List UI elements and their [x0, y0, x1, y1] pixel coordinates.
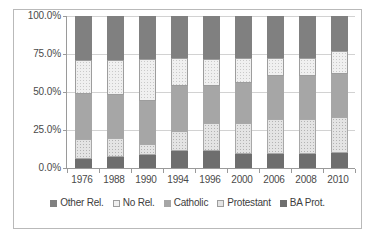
x-tick-label: 2010	[322, 172, 354, 188]
legend-label: BA Prot.	[290, 198, 325, 208]
legend-item-protestant[interactable]: Protestant	[217, 198, 271, 208]
x-tick-label: 2008	[290, 172, 322, 188]
bar-segment	[75, 139, 92, 159]
bar-segment	[139, 59, 156, 102]
bar-segment	[139, 16, 156, 59]
bar-column-1996[interactable]	[195, 16, 227, 168]
bar-segment	[107, 138, 124, 157]
bar-segment	[203, 123, 220, 151]
bar-segment	[267, 119, 284, 153]
bar-segment	[299, 58, 316, 76]
legend-item-catholic[interactable]: Catholic	[164, 198, 209, 208]
y-tickmark	[63, 54, 67, 55]
bar-segment	[171, 131, 188, 151]
x-tickmark	[355, 169, 356, 173]
bar-column-1976[interactable]	[67, 16, 99, 168]
bar-segment	[299, 154, 316, 168]
bar-column-2010[interactable]	[323, 16, 355, 168]
x-tick-label: 1976	[66, 172, 98, 188]
bar-segment	[203, 86, 220, 123]
bar-segment	[171, 16, 188, 58]
bar-segment	[331, 51, 348, 74]
bar-stack	[171, 16, 188, 168]
bar-segment	[267, 76, 284, 119]
y-tick-label: 75.0%	[33, 49, 61, 59]
y-tickmark	[63, 130, 67, 131]
bar-segment	[235, 154, 252, 168]
bar-column-1994[interactable]	[163, 16, 195, 168]
bar-stack	[235, 16, 252, 168]
bar-segment	[139, 155, 156, 168]
x-axis: 197619881990199419962000200620082010	[66, 172, 354, 188]
chart-legend: Other Rel.No Rel.CatholicProtestantBA Pr…	[14, 194, 361, 212]
bar-segment	[171, 58, 188, 86]
bar-segment	[331, 117, 348, 153]
bar-segment	[235, 123, 252, 153]
bar-segment	[171, 86, 188, 131]
bar-segment	[299, 76, 316, 119]
legend-item-other-rel[interactable]: Other Rel.	[50, 198, 104, 208]
legend-swatch-icon	[164, 200, 171, 207]
bar-stack	[139, 16, 156, 168]
legend-item-ba-prot[interactable]: BA Prot.	[280, 198, 325, 208]
bar-segment	[267, 58, 284, 76]
y-tick-label: 0.0%	[39, 163, 61, 173]
bar-segment	[171, 151, 188, 168]
bar-stack	[267, 16, 284, 168]
bar-column-1990[interactable]	[131, 16, 163, 168]
legend-item-no-rel[interactable]: No Rel.	[113, 198, 155, 208]
bar-column-1988[interactable]	[99, 16, 131, 168]
bar-segment	[107, 16, 124, 60]
bar-stack	[299, 16, 316, 168]
bar-segment	[203, 16, 220, 59]
bar-segment	[235, 58, 252, 83]
x-tick-label: 2006	[258, 172, 290, 188]
legend-swatch-icon	[280, 200, 287, 207]
bar-series-group	[67, 16, 355, 168]
bar-segment	[267, 154, 284, 168]
bar-segment	[75, 94, 92, 140]
legend-label: No Rel.	[123, 198, 155, 208]
legend-swatch-icon	[113, 200, 120, 207]
bar-segment	[75, 159, 92, 168]
bar-column-2008[interactable]	[291, 16, 323, 168]
legend-swatch-icon	[50, 200, 57, 207]
plot-wrapper: 0.0%25.0%50.0%75.0%100.0% 19761988199019…	[14, 10, 361, 228]
bar-stack	[203, 16, 220, 168]
bar-segment	[331, 16, 348, 51]
legend-label: Protestant	[227, 198, 271, 208]
legend-label: Catholic	[174, 198, 209, 208]
bar-segment	[75, 60, 92, 93]
bar-segment	[75, 16, 92, 60]
bar-column-2000[interactable]	[227, 16, 259, 168]
y-tickmark	[63, 92, 67, 93]
x-tick-label: 1990	[130, 172, 162, 188]
y-tick-label: 50.0%	[33, 87, 61, 97]
x-tick-label: 1996	[194, 172, 226, 188]
bar-segment	[139, 144, 156, 155]
y-axis: 0.0%25.0%50.0%75.0%100.0%	[14, 16, 64, 168]
bar-segment	[107, 95, 124, 138]
chart-frame: 0.0%25.0%50.0%75.0%100.0% 19761988199019…	[13, 9, 362, 229]
x-tick-label: 2000	[226, 172, 258, 188]
x-tick-label: 1994	[162, 172, 194, 188]
bar-segment	[299, 119, 316, 155]
bar-segment	[331, 153, 348, 168]
bar-segment	[139, 101, 156, 144]
bar-segment	[235, 16, 252, 58]
bar-stack	[107, 16, 124, 168]
bar-segment	[267, 16, 284, 58]
bar-segment	[203, 151, 220, 168]
bar-segment	[299, 16, 316, 58]
bar-stack	[75, 16, 92, 168]
legend-swatch-icon	[217, 200, 224, 207]
x-tick-label: 1988	[98, 172, 130, 188]
y-tickmark	[63, 16, 67, 17]
bar-column-2006[interactable]	[259, 16, 291, 168]
y-tick-label: 100.0%	[28, 11, 61, 21]
y-tick-label: 25.0%	[33, 125, 61, 135]
bar-segment	[235, 83, 252, 123]
plot-area	[66, 16, 355, 169]
bar-segment	[107, 157, 124, 168]
bar-segment	[331, 74, 348, 117]
